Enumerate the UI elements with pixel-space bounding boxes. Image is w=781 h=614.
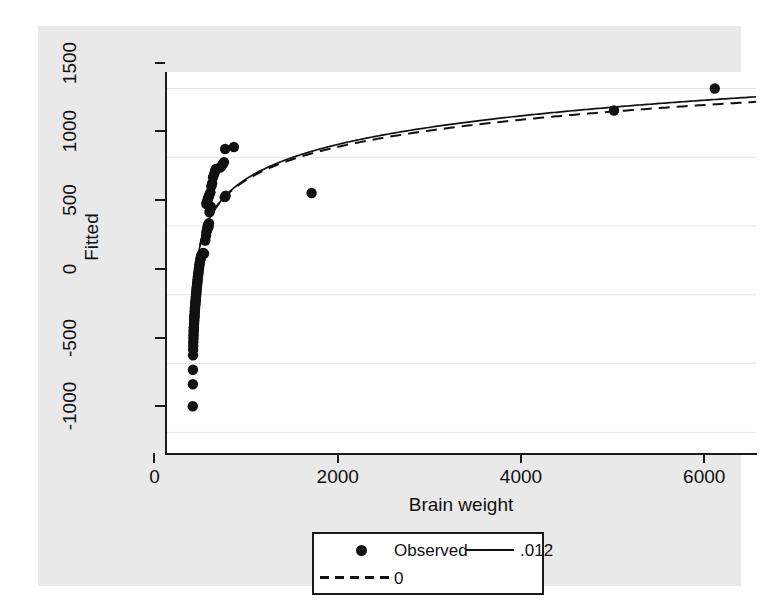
y-tick-label: 0 <box>59 234 81 304</box>
plot-svg <box>165 72 756 453</box>
y-tick-mark <box>155 130 165 132</box>
legend-row: Observed .012 <box>314 537 546 563</box>
fitted-curve-dashed <box>195 102 756 281</box>
y-tick-mark <box>155 199 165 201</box>
y-tick-label: 1000 <box>59 96 81 166</box>
chart-root: Fitted -1000-500050010001500 02000400060… <box>0 0 781 614</box>
y-tick-label: 1500 <box>59 28 81 98</box>
legend-label-zero: 0 <box>394 569 403 589</box>
scatter-point <box>204 218 214 228</box>
y-tick-mark <box>155 268 165 270</box>
scatter-point <box>229 142 239 152</box>
scatter-points <box>188 83 720 411</box>
scatter-point <box>188 401 198 411</box>
scatter-point <box>220 191 230 201</box>
legend-label-012: .012 <box>520 541 553 561</box>
y-tick-label: 500 <box>59 165 81 235</box>
y-tick-mark <box>155 337 165 339</box>
legend-dash-3 <box>350 576 359 579</box>
y-tick-label: -1000 <box>59 371 81 441</box>
x-tick-label: 2000 <box>293 466 383 488</box>
scatter-point <box>220 144 230 154</box>
x-tick-mark <box>703 453 705 463</box>
x-tick-mark <box>337 453 339 463</box>
legend-dash-5 <box>380 576 389 579</box>
scatter-point <box>609 105 619 115</box>
x-tick-label: 6000 <box>659 466 749 488</box>
legend-label-observed: Observed <box>394 541 468 561</box>
legend-solid-line <box>466 549 514 551</box>
graph-region: Fitted -1000-500050010001500 02000400060… <box>38 26 741 586</box>
x-tick-mark <box>520 453 522 463</box>
scatter-point <box>306 188 316 198</box>
y-tick-mark <box>155 405 165 407</box>
legend-dash-2 <box>335 576 344 579</box>
x-axis-title: Brain weight <box>165 494 757 516</box>
legend-row: 0 <box>314 565 546 591</box>
gridlines <box>165 89 756 433</box>
scatter-point <box>219 157 229 167</box>
x-axis-line <box>165 453 757 455</box>
x-tick-mark <box>153 453 155 463</box>
y-axis-line <box>165 72 167 455</box>
fitted-curve-solid <box>195 97 756 282</box>
scatter-point <box>710 83 720 93</box>
scatter-point <box>188 379 198 389</box>
scatter-point <box>188 365 198 375</box>
y-axis-title: Fitted <box>81 177 103 297</box>
x-tick-label: 4000 <box>476 466 566 488</box>
x-tick-label: 0 <box>109 466 199 488</box>
plot-area <box>165 72 756 453</box>
legend-marker-dot <box>356 545 367 556</box>
legend-dash-4 <box>365 576 374 579</box>
scatter-point <box>199 248 209 258</box>
y-tick-label: -500 <box>59 303 81 373</box>
legend: Observed .012 0 <box>312 532 544 595</box>
legend-dash-1 <box>320 576 329 579</box>
y-tick-mark <box>155 62 165 64</box>
